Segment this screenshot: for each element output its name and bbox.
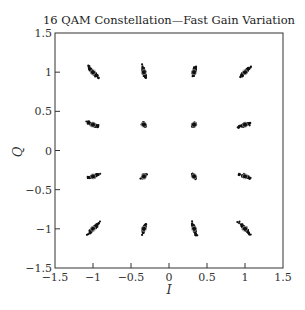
svg-text:1: 1 (242, 271, 249, 284)
svg-text:1: 1 (45, 66, 52, 79)
svg-text:−1.5: −1.5 (25, 262, 52, 275)
svg-text:1.5: 1.5 (274, 271, 292, 284)
svg-text:1.5: 1.5 (35, 27, 53, 40)
y-axis-label: Q (10, 146, 25, 157)
svg-text:−0.5: −0.5 (25, 184, 52, 197)
svg-text:0.5: 0.5 (35, 105, 53, 118)
svg-text:−1: −1 (85, 271, 101, 284)
svg-text:−0.5: −0.5 (118, 271, 145, 284)
chart-title: 16 QAM Constellation—Fast Gain Variation (43, 13, 296, 27)
svg-text:−1: −1 (36, 223, 52, 236)
constellation-chart: 16 QAM Constellation—Fast Gain Variation… (0, 0, 305, 310)
scatter-points (85, 63, 252, 236)
x-axis-label: I (165, 282, 172, 297)
svg-text:0: 0 (45, 145, 52, 158)
svg-text:0.5: 0.5 (198, 271, 216, 284)
x-axis-ticks: −1.5−1−0.500.511.5 (42, 263, 292, 284)
